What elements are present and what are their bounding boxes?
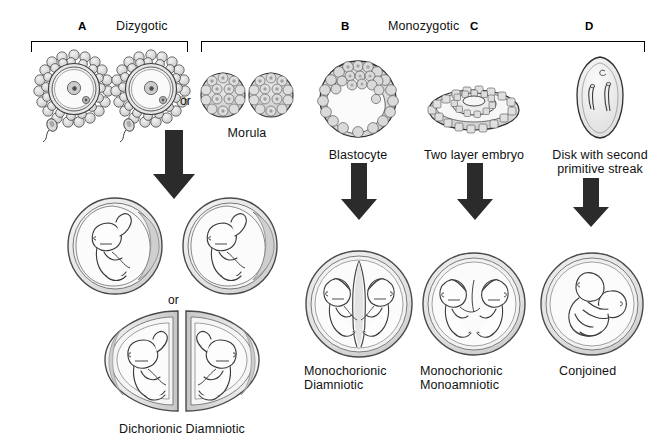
panel-letter-c: C [470, 20, 479, 32]
ovum-1 [34, 50, 113, 127]
disk-second-streak-illustration [565, 53, 635, 143]
fused-sac-left [105, 311, 178, 411]
panel-letter-d: D [585, 20, 594, 32]
or-connector-outcomes: or [168, 293, 179, 307]
or-connector-top: or [180, 94, 191, 108]
dizygotic-title: Dizygotic [116, 19, 168, 33]
disk-second-streak-caption: Disk with second primitive streak [552, 148, 647, 176]
two-layer-embryo-caption: Two layer embryo [424, 148, 524, 162]
arrow-two-layer [456, 163, 494, 221]
arrow-dizygotic [152, 130, 196, 200]
dichorionic-diamniotic-caption: Dichorionic Diamniotic [119, 422, 245, 436]
bracket-monozygotic [201, 41, 645, 52]
monochorionic-monoamniotic-caption: Monochorionic Monoamniotic [420, 364, 503, 392]
dichorionic-fused-sacs [100, 307, 265, 415]
two-layer-embryo-illustration [424, 80, 524, 138]
dichorionic-separate-sacs [60, 196, 290, 296]
conjoined-caption: Conjoined [559, 364, 616, 378]
panel-letter-a: A [78, 20, 87, 32]
arrow-disk [572, 178, 610, 228]
monozygotic-title: Monozygotic [388, 19, 459, 33]
dichorionic-sac-1 [68, 198, 162, 294]
blastocyte-illustration [315, 55, 401, 143]
morula-caption: Morula [228, 126, 267, 140]
ovum-2 [111, 50, 190, 127]
monochorionic-diamniotic-caption: Monochorionic Diamniotic [304, 364, 387, 392]
arrow-blastocyte [340, 163, 378, 221]
twinning-diagram: A Dizygotic B Monozygotic C D [0, 0, 664, 448]
monochorionic-diamniotic-illustration [303, 248, 415, 360]
blastocyte-caption: Blastocyte [329, 148, 388, 162]
monochorionic-monoamniotic-illustration [420, 250, 528, 358]
panel-letter-b: B [341, 20, 350, 32]
morula-1 [201, 73, 245, 117]
dichorionic-sac-2 [183, 198, 277, 294]
morula-2 [249, 73, 293, 117]
conjoined-illustration [538, 250, 646, 358]
fused-sac-right [186, 311, 259, 411]
morula-illustration [198, 70, 296, 120]
